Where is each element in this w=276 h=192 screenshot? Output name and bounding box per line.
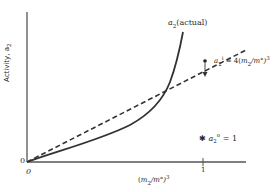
asterisk-marker-icon: ✱ <box>199 134 206 143</box>
y-axis-label: Activity, a2 <box>3 44 12 82</box>
x-tick-one-label: 1 <box>201 167 205 174</box>
x-axis-label: (m2/m°)3 <box>138 175 170 186</box>
actual-curve-label: a2(actual) <box>168 19 207 29</box>
standard-state-label: ✱ a2o = 1 <box>199 133 237 145</box>
activity-chart <box>0 0 276 192</box>
actual-curve <box>27 32 183 162</box>
ideal-line-label: a2i = 4(m2/m°)3 <box>214 56 270 67</box>
down-arrowhead-icon <box>203 72 208 77</box>
ideal-point <box>203 59 207 63</box>
origin-y-label: 0 <box>20 157 25 165</box>
origin-x-label: 0 <box>26 168 31 176</box>
